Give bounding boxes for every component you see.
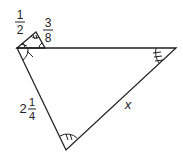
fraction-numerator: 1 [17, 8, 24, 22]
label-small-left-side: 1 2 [15, 8, 25, 37]
angle-mark-bottom-vertex [60, 134, 77, 140]
triangle-figure: 1 2 3 8 2 1 4 x [0, 0, 183, 156]
angle-mark-small-right [39, 43, 42, 48]
angle-mark-large-left [23, 48, 33, 60]
fraction-denominator: 4 [29, 110, 35, 122]
fraction-denominator: 8 [45, 31, 52, 45]
fraction-denominator: 2 [17, 23, 24, 37]
fraction-numerator: 3 [45, 16, 52, 30]
mixed-whole: 2 [19, 101, 26, 116]
large-triangle [17, 48, 176, 150]
fraction-numerator: 1 [29, 96, 35, 108]
label-small-right-side: 3 8 [43, 16, 53, 45]
label-large-right-side: x [124, 97, 132, 112]
label-large-left-side: 2 1 4 [19, 96, 36, 122]
